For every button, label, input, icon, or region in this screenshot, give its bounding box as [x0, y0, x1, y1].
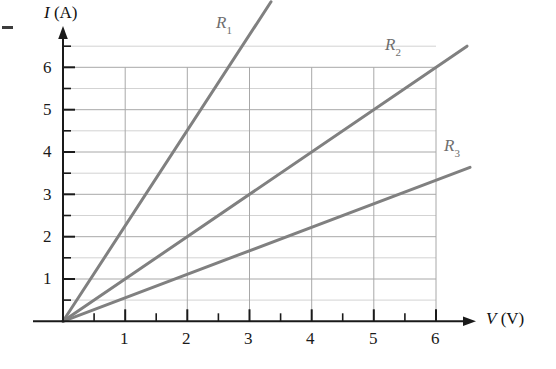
y-tick-label-1: 1 — [43, 270, 52, 287]
y-tick-label-6: 6 — [43, 59, 52, 76]
plot-area — [0, 0, 556, 369]
series-label-r1-text: R — [216, 13, 226, 32]
series-r1 — [63, 2, 271, 322]
y-axis-title-unit: (A) — [50, 3, 78, 22]
y-axis-minor-ticks — [63, 46, 71, 300]
series-label-r1-subscript: 1 — [226, 24, 232, 36]
series-label-r2-text: R — [385, 35, 395, 54]
series-r3 — [63, 167, 470, 321]
y-tick-label-3: 3 — [43, 186, 52, 203]
x-tick-label-4: 4 — [306, 330, 315, 347]
iv-characteristic-figure: I (A) V (V) 6 5 4 3 2 1 1 2 3 4 5 6 R1 R… — [0, 0, 556, 369]
series-label-r2: R2 — [385, 36, 401, 56]
y-tick-label-4: 4 — [43, 143, 52, 160]
x-tick-label-3: 3 — [244, 330, 253, 347]
series-label-r3-text: R — [444, 136, 454, 155]
series-label-r2-subscript: 2 — [395, 46, 401, 58]
series-label-r3: R3 — [444, 137, 460, 157]
x-axis-title: V (V) — [486, 310, 524, 327]
y-tick-label-5: 5 — [43, 101, 52, 118]
x-axis-title-var: V — [486, 309, 496, 328]
y-tick-label-2: 2 — [43, 228, 52, 245]
x-tick-label-2: 2 — [182, 330, 191, 347]
x-axis — [33, 317, 476, 327]
x-tick-label-6: 6 — [431, 330, 440, 347]
series-r2 — [63, 46, 467, 321]
x-tick-label-1: 1 — [120, 330, 129, 347]
series-label-r1: R1 — [216, 14, 232, 34]
x-axis-title-unit: (V) — [496, 309, 524, 328]
x-tick-label-5: 5 — [369, 330, 378, 347]
y-axis-title: I (A) — [44, 4, 78, 21]
series-label-r3-subscript: 3 — [454, 147, 460, 159]
